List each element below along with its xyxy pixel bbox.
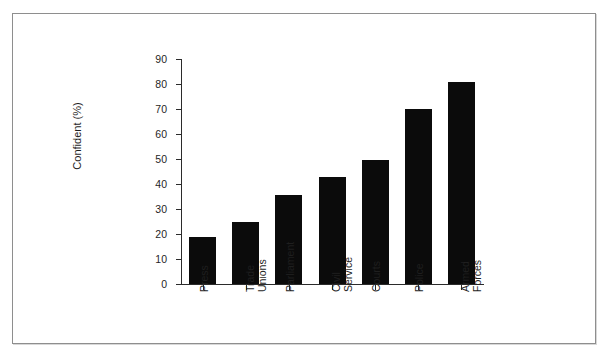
x-tick-label: Courts: [371, 261, 383, 292]
x-tick-label: Parliament: [285, 242, 297, 292]
y-tick-label: 60: [133, 129, 167, 140]
y-tick-label: 10: [133, 254, 167, 265]
figure-frame: Confident (%) 9080706050403020100 PressT…: [12, 13, 596, 344]
x-tick-label: Press: [199, 265, 211, 292]
y-tick-label: 20: [133, 229, 167, 240]
y-axis-title: Confident (%): [71, 66, 83, 206]
y-tick-label: 70: [133, 104, 167, 115]
y-tick-mark: [176, 284, 181, 285]
bar-chart: Confident (%) 9080706050403020100 PressT…: [13, 14, 611, 358]
x-tick-label: Armed Forces: [460, 260, 483, 292]
bar: [405, 109, 432, 284]
y-tick-label: 90: [133, 54, 167, 65]
x-tick-label: Police: [414, 263, 426, 292]
y-tick-label: 30: [133, 204, 167, 215]
y-tick-label: 50: [133, 154, 167, 165]
y-tick-label: 0: [133, 279, 167, 290]
y-tick-label: 80: [133, 79, 167, 90]
bar-series: [181, 59, 483, 284]
x-tick-label: Trade Unions: [245, 259, 268, 292]
bar: [448, 82, 475, 285]
y-tick-label: 40: [133, 179, 167, 190]
x-tick-label: Civil Service: [331, 257, 354, 292]
